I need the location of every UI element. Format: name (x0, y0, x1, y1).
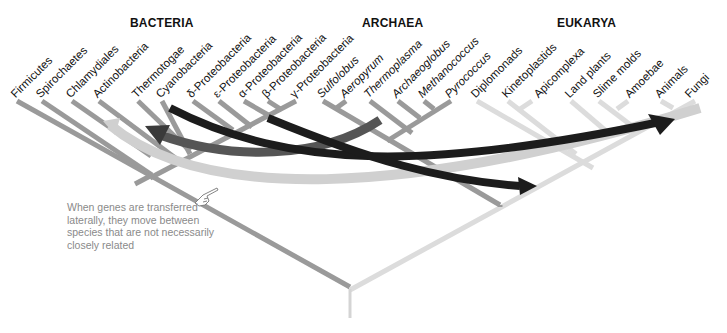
lateral-transfer-annotation: When genes are transferred laterally, th… (67, 201, 217, 251)
domain-label-eukarya: EUKARYA (557, 16, 616, 30)
domain-label-archaea: ARCHAEA (362, 16, 423, 30)
domain-label-bacteria: BACTERIA (130, 16, 194, 30)
lateral-transfer-arrows (103, 108, 700, 195)
